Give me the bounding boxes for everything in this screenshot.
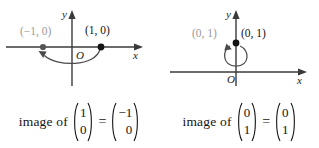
equals-sign-left: = xyxy=(98,114,106,130)
axes-and-arrow-svg-right xyxy=(160,0,319,92)
x-axis-left xyxy=(6,43,143,50)
point-marker-image-left xyxy=(40,44,46,50)
coordinate-diagram-right: x y O (0, 1) (0, 1) xyxy=(160,0,319,92)
output-vector-left: −1 0 xyxy=(110,102,140,142)
left-paren-icon xyxy=(72,102,79,142)
equation-right: image of 0 1 = 0 xyxy=(160,96,319,148)
y-axis-label-right: y xyxy=(226,9,231,20)
image-point-label-left: (−1, 0) xyxy=(20,26,51,38)
origin-label-left: O xyxy=(76,50,84,61)
left-paren-icon xyxy=(236,102,243,142)
vector-components-right-output: 0 1 xyxy=(281,105,290,138)
vector-component: 0 xyxy=(126,122,133,139)
vector-component: 1 xyxy=(244,122,251,139)
right-paren-icon xyxy=(133,102,140,142)
mapping-arrow-left xyxy=(39,49,101,63)
right-paren-icon xyxy=(290,102,297,142)
vector-components-right-input: 0 1 xyxy=(243,105,252,138)
equation-left: image of 1 0 = −1 xyxy=(0,96,159,148)
image-point-label-right: (0, 1) xyxy=(241,28,266,40)
output-vector-right: 0 1 xyxy=(274,102,297,142)
axes-and-arrow-svg-left xyxy=(0,0,159,92)
y-axis-left xyxy=(68,10,75,86)
coordinate-diagram-left: x y O (−1, 0) (1, 0) xyxy=(0,0,159,92)
source-point-label-left: (1, 0) xyxy=(85,25,110,37)
input-vector-left: 1 0 xyxy=(72,102,95,142)
y-axis-label-left: y xyxy=(62,9,67,20)
source-point-label-right: (0, 1) xyxy=(192,28,217,40)
origin-label-right: O xyxy=(227,74,235,85)
left-paren-icon xyxy=(274,102,281,142)
vector-components-left-input: 1 0 xyxy=(79,105,88,138)
right-paren-icon xyxy=(251,102,258,142)
x-axis-label-left: x xyxy=(133,50,138,61)
vector-component: 0 xyxy=(282,105,289,122)
vector-component: −1 xyxy=(118,105,132,122)
vector-component: 0 xyxy=(244,105,251,122)
right-paren-icon xyxy=(87,102,94,142)
vector-component: 0 xyxy=(80,122,87,139)
equation-lead-text-right: image of xyxy=(182,114,231,130)
vector-component: 1 xyxy=(80,105,87,122)
vector-component: 1 xyxy=(282,122,289,139)
x-axis-right xyxy=(170,68,307,75)
input-vector-right: 0 1 xyxy=(236,102,259,142)
equation-lead-text-left: image of xyxy=(19,114,68,130)
vector-components-left-output: −1 0 xyxy=(117,105,133,138)
x-axis-label-right: x xyxy=(297,75,302,86)
figure-panel-left: x y O (−1, 0) (1, 0) image of 1 0 = xyxy=(0,0,159,148)
point-marker-right xyxy=(233,40,240,47)
figure-panel-right: x y O (0, 1) (0, 1) image of 0 1 = xyxy=(160,0,319,148)
left-paren-icon xyxy=(110,102,117,142)
point-marker-source-left xyxy=(98,44,105,51)
equals-sign-right: = xyxy=(262,114,270,130)
figure-container: x y O (−1, 0) (1, 0) image of 1 0 = xyxy=(0,0,319,148)
